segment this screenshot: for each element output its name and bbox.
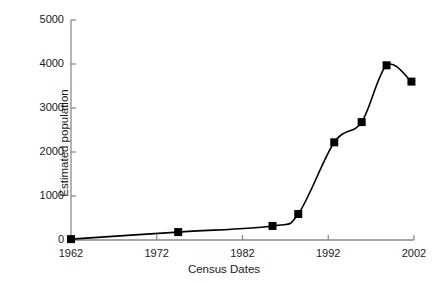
y-axis-ticks — [71, 20, 76, 240]
y-axis-title: Estimated population — [58, 89, 70, 196]
chart-container: 010002000300040005000 196219721982199220… — [0, 0, 448, 285]
x-tick-label: 2002 — [384, 247, 444, 259]
data-point-marker — [330, 138, 338, 146]
x-tick-label: 1962 — [41, 247, 101, 259]
y-tick-label: 5000 — [14, 13, 64, 25]
data-markers — [67, 61, 415, 243]
data-point-marker — [383, 61, 391, 69]
y-tick-label: 3000 — [14, 101, 64, 113]
y-tick-label: 0 — [14, 233, 64, 245]
data-point-marker — [407, 78, 415, 86]
data-point-marker — [174, 228, 182, 236]
data-point-marker — [67, 235, 75, 243]
x-tick-label: 1972 — [127, 247, 187, 259]
x-tick-label: 1982 — [213, 247, 273, 259]
x-axis-title: Census Dates — [0, 263, 448, 275]
axes — [71, 20, 414, 240]
data-point-marker — [358, 118, 366, 126]
data-point-marker — [269, 222, 277, 230]
x-tick-label: 1992 — [298, 247, 358, 259]
y-tick-label: 4000 — [14, 57, 64, 69]
y-tick-label: 1000 — [14, 189, 64, 201]
data-series-line — [71, 64, 411, 239]
data-point-marker — [294, 210, 302, 218]
y-tick-label: 2000 — [14, 145, 64, 157]
